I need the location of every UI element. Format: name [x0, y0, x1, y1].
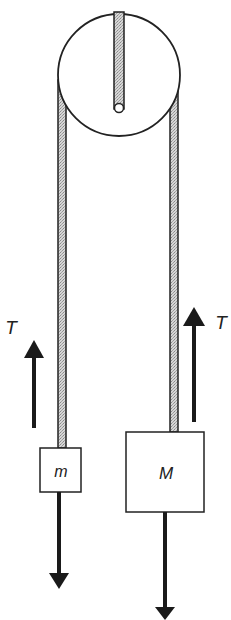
rope-right	[170, 80, 178, 432]
tension-arrow-left: T	[5, 317, 44, 428]
rope-left	[58, 80, 66, 448]
mass-small-label: m	[54, 463, 67, 480]
support-rod	[114, 12, 124, 109]
atwood-machine-diagram: m M T T	[0, 0, 231, 620]
mass-large-label: M	[159, 464, 174, 483]
tension-label-left: T	[5, 317, 18, 338]
tension-arrow-right: T	[183, 307, 228, 422]
mass-large-block: M	[126, 432, 204, 512]
tension-label-right: T	[215, 312, 228, 333]
arrowhead-up-icon	[24, 340, 44, 358]
weight-arrow-large	[155, 512, 175, 620]
arrowhead-down-icon	[155, 607, 175, 620]
arrowhead-down-icon	[49, 573, 69, 589]
arrowhead-up-icon	[183, 307, 205, 326]
weight-arrow-small	[49, 492, 69, 589]
mass-small-block: m	[40, 448, 81, 492]
pulley-axle	[115, 104, 124, 113]
